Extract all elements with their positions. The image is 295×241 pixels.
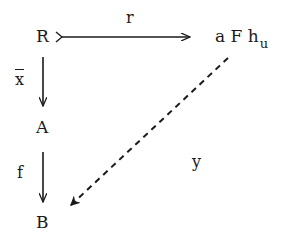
node-target-main: a F h	[215, 26, 259, 46]
arrow-r	[56, 32, 190, 42]
label-y: y	[192, 154, 201, 170]
node-target-subscript: u	[260, 36, 268, 51]
node-target: a F hu	[215, 28, 268, 45]
label-f: f	[17, 165, 23, 181]
node-R: R	[36, 28, 49, 45]
node-B: B	[36, 214, 49, 231]
node-A: A	[36, 119, 48, 136]
label-r: r	[126, 10, 134, 26]
label-xbar: x	[15, 72, 24, 88]
arrow-y-dashed	[70, 58, 228, 206]
